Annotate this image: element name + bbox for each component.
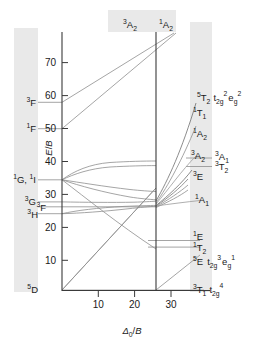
top-label-3A2-sub: 2 (133, 25, 137, 32)
left-term-1I-letter: I (33, 174, 36, 185)
right-term-1T2-sub: 2 (203, 248, 207, 255)
x-axis-label-delta: Δ (121, 325, 128, 336)
curve-1T2-upper (62, 166, 156, 180)
curve-3A2-steep (62, 33, 174, 102)
curve-1A2-steep (62, 33, 176, 129)
right-term-5T2-cfg-tsub: 2g (216, 98, 224, 106)
right-term-5E-cfg-esub: g (227, 262, 231, 270)
y-axis-label: E/B (43, 140, 54, 156)
right-term-5T2-sub: 2 (207, 98, 211, 105)
left-term-3G-letter: G (29, 196, 36, 207)
y-ticks (62, 63, 68, 261)
right-term-3E-letter: E (197, 171, 203, 182)
right-term-1T1-sub: 1 (203, 113, 207, 120)
right-term-3T2-sub: 2 (225, 167, 229, 174)
x-ticklabel-20: 20 (129, 299, 141, 310)
y-ticklabel-20: 20 (45, 222, 57, 233)
diagram-canvas: 70 60 50 40 30 20 10 10 20 30 E/B Δ0/B 3… (0, 0, 260, 350)
y-ticklabel-50: 50 (45, 123, 57, 134)
right-term-1A1-sub: 1 (205, 200, 209, 207)
right-term-5T2-cfg-esup: 2 (237, 90, 241, 97)
right-term-3T1-cfg-tsub: 2g (212, 290, 220, 298)
right-term-3T1-cfg-tsup: 4 (220, 282, 224, 289)
y-ticklabel-60: 60 (45, 90, 57, 101)
right-term-3A1-sub: 1 (225, 157, 229, 164)
left-term-3F-letter: F (30, 97, 36, 108)
curve-1G1I-desc-b (62, 180, 156, 200)
y-ticklabel-70: 70 (45, 57, 57, 68)
left-term-3Flower-letter: F (40, 202, 46, 213)
curve-3G (62, 201, 156, 202)
y-ticklabel-10: 10 (45, 255, 57, 266)
left-term-5D-letter: D (31, 284, 38, 295)
curve-1G1I-desc-a (62, 180, 156, 192)
left-term-3H-letter: H (31, 209, 38, 220)
right-term-3T1-sub: 1 (203, 290, 207, 297)
x-ticklabel-30: 30 (165, 299, 177, 310)
tanabe-sugano-figure: 70 60 50 40 30 20 10 10 20 30 E/B Δ0/B 3… (0, 0, 260, 350)
right-term-5T2-cfg-tsup: 2 (224, 90, 228, 97)
top-label-1A2-sub: 2 (169, 25, 173, 32)
left-term-5D: 5D (27, 283, 38, 295)
right-term-5E-cfg-tsub: 2g (210, 262, 218, 270)
x-ticklabel-10: 10 (93, 299, 105, 310)
right-term-3A2-sub: 2 (201, 156, 205, 163)
x-ticks (98, 291, 171, 298)
y-axis-label-B: B (43, 140, 54, 147)
left-term-1G-letter: G, (17, 174, 30, 185)
x-axis-label-B: B (135, 325, 142, 336)
right-term-5E-cfg-tsup: 3 (217, 254, 221, 261)
curve-1T1-upper (62, 161, 156, 180)
left-term-1F-letter: F (30, 123, 36, 134)
svg-text:E/B: E/B (43, 140, 54, 156)
curve-3A2-sf (156, 170, 192, 206)
right-term-5E-cfg-esup: 1 (231, 254, 235, 261)
x-axis-label: Δ0/B (121, 325, 142, 338)
right-term-5E-letter: E (197, 256, 203, 267)
right-term-1E-letter: E (197, 231, 203, 242)
y-ticklabel-40: 40 (45, 156, 57, 167)
left-term-band (14, 28, 38, 292)
right-term-5T2-cfg-esub: g (234, 98, 238, 106)
right-term-1A2-sub: 2 (203, 134, 207, 141)
y-ticklabel-30: 30 (45, 189, 57, 200)
left-term-1G-1I: 1G, 1I (13, 173, 36, 185)
